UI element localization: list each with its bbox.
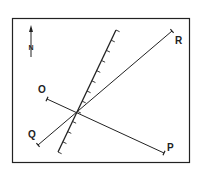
label-o: O [38,84,46,95]
diagram-canvas: N R O Q P [0,0,200,174]
hatched-fault-line [58,30,120,154]
label-q: Q [28,129,36,140]
north-arrow-icon: N [29,25,34,57]
line-op [47,99,164,153]
label-p: P [167,142,174,153]
north-label: N [29,44,34,51]
line-qr [38,31,172,145]
label-r: R [175,35,183,46]
section-lines [36,29,173,155]
